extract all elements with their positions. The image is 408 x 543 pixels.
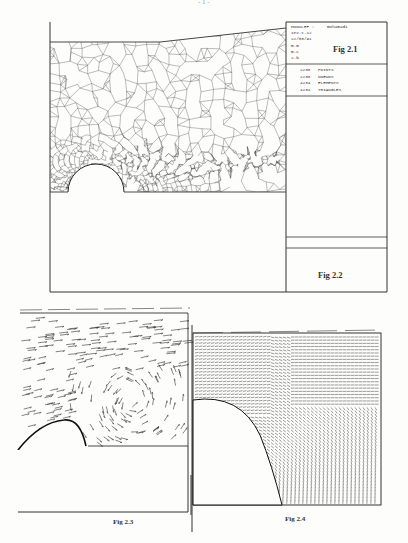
stat-count: 2238	[300, 67, 310, 73]
stat-name: TRIANGLES	[318, 87, 341, 93]
info-line6: 2.b	[291, 55, 299, 61]
stat-name: NOEUDS	[318, 74, 333, 80]
velocity-field-figure	[0, 300, 200, 530]
info-user: mohamadi	[327, 24, 348, 30]
fig-2-4-label: Fig 2.4	[285, 515, 305, 523]
info-date: 22/03/91	[291, 36, 312, 42]
stat-count: 2238	[300, 74, 310, 80]
stat-name: POINTS	[318, 67, 333, 73]
stat-name: ELEMENTS	[318, 80, 339, 86]
stat-count: 4234	[300, 80, 310, 86]
dense-vector-figure	[190, 325, 390, 525]
stat-count: 4234	[300, 87, 310, 93]
fig-2-1-label: Fig 2.1	[333, 44, 358, 54]
fig-2-3-label: Fig 2.3	[113, 518, 133, 526]
fig-2-2-label: Fig 2.2	[318, 270, 343, 280]
